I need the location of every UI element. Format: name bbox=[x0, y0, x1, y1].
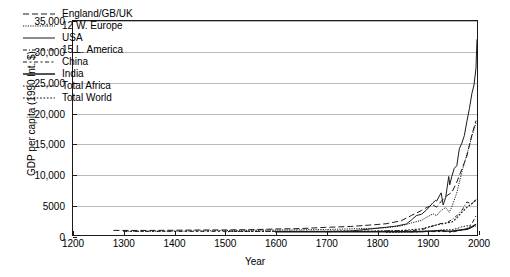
x-tick-label: 1300 bbox=[113, 238, 135, 249]
legend-line-swatch bbox=[22, 9, 56, 19]
chart-figure: GDP per capita (1990 Int. $) Year 050001… bbox=[0, 0, 510, 277]
legend-line-swatch bbox=[22, 57, 56, 67]
y-tick-label: 10,000 bbox=[34, 170, 65, 181]
legend-item: 15 L. America bbox=[22, 44, 133, 56]
x-tick-label: 1400 bbox=[163, 238, 185, 249]
x-axis-title: Year bbox=[0, 256, 510, 267]
legend-item: USA bbox=[22, 32, 133, 44]
x-tick-label: 1800 bbox=[366, 238, 388, 249]
legend-label: USA bbox=[62, 33, 83, 43]
x-tick-label: 1500 bbox=[214, 238, 236, 249]
legend-label: India bbox=[62, 69, 84, 79]
series-line bbox=[326, 39, 478, 231]
legend-label: 12 W. Europe bbox=[62, 21, 123, 31]
legend-line-swatch bbox=[22, 93, 56, 103]
x-tick-label: 1900 bbox=[417, 238, 439, 249]
y-tick-label: 20,000 bbox=[34, 108, 65, 119]
y-tick-label: 5000 bbox=[43, 201, 65, 212]
legend-item: Total Africa bbox=[22, 80, 133, 92]
legend-item: Total World bbox=[22, 92, 133, 104]
legend-item: India bbox=[22, 68, 133, 80]
series-line bbox=[124, 123, 476, 231]
legend-item: England/GB/UK bbox=[22, 8, 133, 20]
legend-label: China bbox=[62, 57, 88, 67]
legend-label: Total Africa bbox=[62, 81, 111, 91]
y-tick-label: 15,000 bbox=[34, 139, 65, 150]
legend-line-swatch bbox=[22, 33, 56, 43]
x-tick-label: 1700 bbox=[316, 238, 338, 249]
legend-label: Total World bbox=[62, 93, 112, 103]
legend-line-swatch bbox=[22, 21, 56, 31]
x-tick-label: 1200 bbox=[62, 238, 84, 249]
plot-area: 0500010,00015,00020,00025,00030,00035,00… bbox=[72, 20, 478, 236]
legend-line-swatch bbox=[22, 81, 56, 91]
legend-item: China bbox=[22, 56, 133, 68]
chart-legend: England/GB/UK12 W. EuropeUSA15 L. Americ… bbox=[22, 8, 133, 104]
x-tick-label: 1600 bbox=[265, 238, 287, 249]
legend-label: 15 L. America bbox=[62, 45, 123, 55]
legend-item: 12 W. Europe bbox=[22, 20, 133, 32]
data-series-layer bbox=[73, 21, 477, 235]
legend-line-swatch bbox=[22, 45, 56, 55]
x-tick-label: 2000 bbox=[468, 238, 490, 249]
x-tick bbox=[479, 231, 480, 235]
legend-label: England/GB/UK bbox=[62, 9, 133, 19]
legend-line-swatch bbox=[22, 69, 56, 79]
